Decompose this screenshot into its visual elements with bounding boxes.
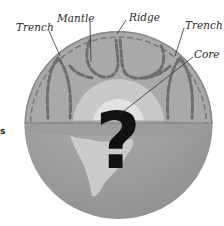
label-trench-left: Trench: [16, 21, 54, 33]
label-trench-right: Trench: [185, 19, 223, 31]
edge-text-fragment: s: [0, 126, 5, 136]
earth-structure-diagram: ? Trench Mantle Ridge Trench Core s: [0, 0, 224, 226]
label-ridge: Ridge: [128, 11, 160, 23]
unknown-core-symbol: ?: [95, 96, 140, 186]
label-core: Core: [194, 48, 220, 60]
label-mantle: Mantle: [56, 12, 95, 24]
leader-trench-left: [49, 31, 60, 56]
leader-trench-right: [175, 28, 184, 56]
